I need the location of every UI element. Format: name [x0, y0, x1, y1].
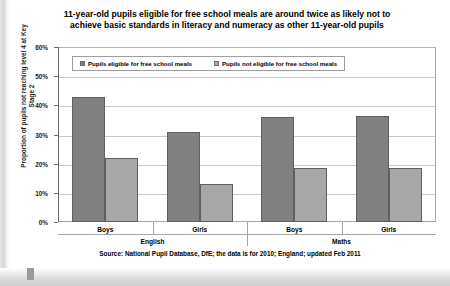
page-left-edge: [0, 0, 10, 286]
y-axis-tick-label: 50%: [35, 73, 48, 80]
y-axis-tick-label: 20%: [35, 160, 48, 167]
gridline: [59, 106, 435, 107]
category-label: Girls: [342, 226, 437, 233]
bar: [167, 132, 200, 222]
scanned-page: 11-year-old pupils eligible for free sch…: [0, 0, 450, 286]
bar: [294, 168, 327, 222]
y-axis-tick-label: 10%: [35, 189, 48, 196]
bar: [261, 117, 294, 222]
bar-chart: 11-year-old pupils eligible for free sch…: [10, 0, 450, 268]
y-axis-tick: [54, 164, 58, 165]
y-axis-tick: [54, 222, 58, 223]
category-separator: [247, 222, 248, 234]
y-axis-tick-label: 60%: [35, 44, 48, 51]
legend-item: Pupils not eligible for free school meal…: [214, 60, 337, 67]
gridline: [59, 77, 435, 78]
legend-item: Pupils eligible for free school meals: [80, 60, 192, 67]
y-axis-line: [58, 47, 59, 222]
source-note: Source: National Pupil Database, DfE; th…: [10, 250, 450, 257]
legend-label: Pupils eligible for free school meals: [88, 60, 192, 67]
y-axis-tick-label: 30%: [35, 131, 48, 138]
group-label: English: [58, 238, 247, 245]
square-swatch-icon: [80, 61, 85, 66]
y-axis-tick: [54, 135, 58, 136]
chart-title: 11-year-old pupils eligible for free sch…: [62, 9, 392, 32]
category-label: Boys: [58, 226, 153, 233]
bar: [389, 168, 422, 222]
page-bottom-notch: [27, 268, 34, 280]
chart-legend: Pupils eligible for free school mealsPup…: [72, 56, 345, 71]
bar: [105, 158, 138, 222]
y-axis-title: Proportion of pupils not reaching level …: [20, 16, 36, 176]
category-label: Girls: [153, 226, 248, 233]
bar: [72, 97, 105, 222]
legend-label: Pupils not eligible for free school meal…: [222, 60, 337, 67]
category-label: Boys: [247, 226, 342, 233]
bar: [356, 116, 389, 222]
y-axis-tick-label: 0%: [39, 219, 48, 226]
y-axis-tick: [54, 47, 58, 48]
category-separator: [342, 222, 343, 234]
category-separator: [153, 222, 154, 234]
bar: [200, 184, 233, 222]
y-axis-tick: [54, 105, 58, 106]
group-label: Maths: [247, 238, 436, 245]
y-axis-tick: [54, 76, 58, 77]
y-axis-tick-label: 40%: [35, 102, 48, 109]
y-axis-tick: [54, 193, 58, 194]
square-swatch-icon: [214, 61, 219, 66]
page-bottom-edge: [0, 268, 450, 286]
